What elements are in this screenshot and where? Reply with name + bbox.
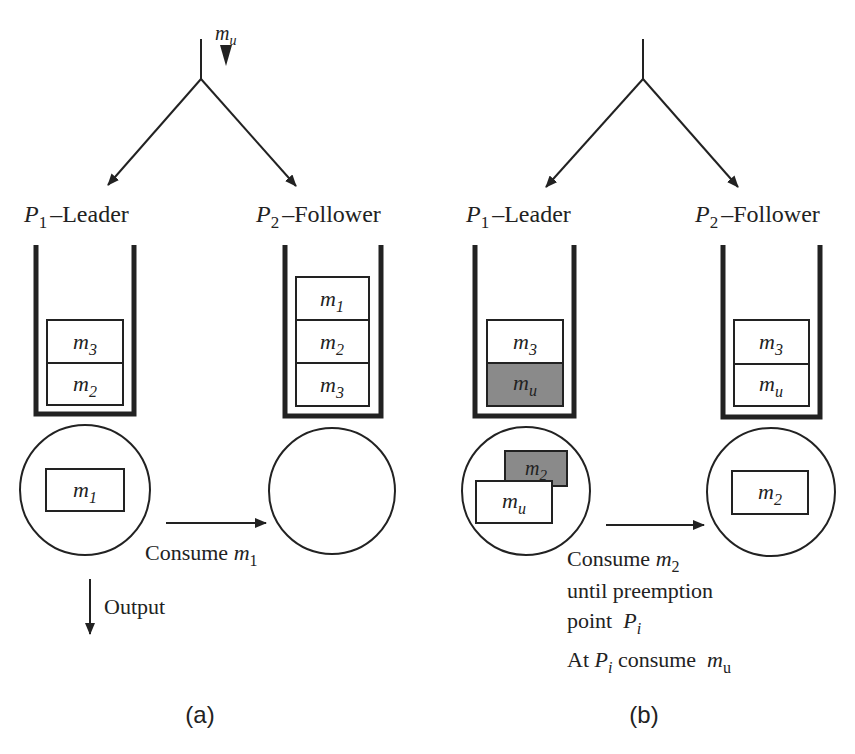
transfer-line-3: point Pi: [567, 608, 641, 637]
caption-b: (b): [629, 701, 658, 728]
output-label: Output: [104, 594, 165, 619]
arrow-to-leader: [546, 79, 643, 187]
follower-processor-a: [269, 428, 395, 554]
leader-label-a: P1–Leader: [23, 201, 129, 232]
leader-label-b: P1–Leader: [465, 201, 571, 232]
transfer-line-4: At Pi consume mu: [567, 647, 731, 676]
transfer-line-1: Consume m2: [567, 546, 680, 575]
transfer-label-a: Consume m1: [145, 540, 258, 569]
arrow-to-leader: [108, 79, 201, 185]
arrow-to-follower: [643, 79, 738, 187]
arrow-to-follower: [201, 79, 296, 186]
input-label: mu: [215, 22, 236, 48]
leader-follower-diagram: mu P1–Leader P2–Follower m3 m2 m1 m2 m3 …: [0, 0, 855, 754]
panel-b: P1–Leader P2–Follower m3 mu m3 mu m2 mu …: [462, 39, 835, 728]
transfer-line-2: until preemption: [567, 578, 713, 603]
caption-a: (a): [185, 701, 214, 728]
input-arrow-icon: [220, 45, 232, 66]
follower-label-a: P2–Follower: [255, 201, 381, 232]
follower-label-b: P2–Follower: [694, 201, 820, 232]
panel-a: mu P1–Leader P2–Follower m3 m2 m1 m2 m3 …: [20, 22, 395, 728]
